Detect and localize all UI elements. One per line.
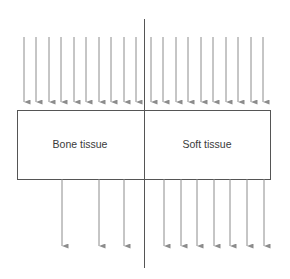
soft-tissue-label: Soft tissue: [182, 138, 231, 150]
incident-xray-arrows: [24, 37, 263, 102]
transmitted-xray-arrows: [62, 179, 264, 246]
xray-attenuation-diagram: [0, 0, 290, 279]
bone-tissue-label: Bone tissue: [53, 138, 108, 150]
